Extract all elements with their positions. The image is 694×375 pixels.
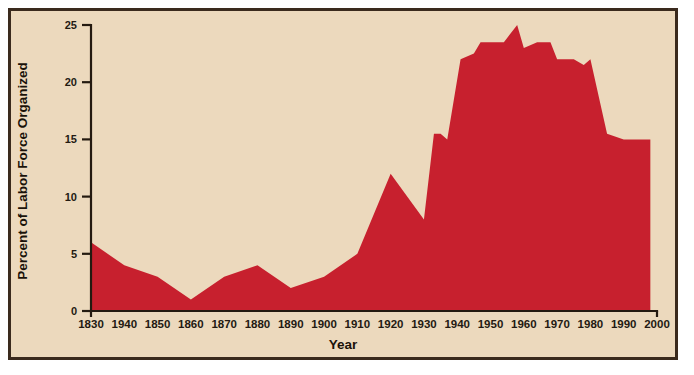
x-axis-title: Year <box>329 337 358 352</box>
x-tick-label: 1980 <box>578 318 604 330</box>
x-tick-label: 1860 <box>178 318 204 330</box>
chart-figure-frame: 0510152025 18301940185018601870188018901… <box>8 8 678 360</box>
x-tick-label: 1890 <box>278 318 304 330</box>
y-tick-label: 5 <box>71 248 77 260</box>
y-tick-label: 25 <box>65 19 77 31</box>
y-tick-label: 20 <box>65 76 77 88</box>
y-axis-ticks <box>82 25 91 311</box>
labor-force-area-chart: 0510152025 18301940185018601870188018901… <box>11 11 675 357</box>
x-tick-label: 1950 <box>478 318 504 330</box>
y-axis-tick-labels: 0510152025 <box>65 19 77 317</box>
y-tick-label: 0 <box>71 305 77 317</box>
area-series-path <box>91 25 650 311</box>
chart-plot-host: 0510152025 18301940185018601870188018901… <box>11 11 675 357</box>
x-tick-label: 1900 <box>311 318 337 330</box>
x-tick-label: 2000 <box>644 318 670 330</box>
x-tick-label: 1880 <box>245 318 271 330</box>
x-tick-label: 1960 <box>511 318 537 330</box>
y-tick-label: 15 <box>65 133 77 145</box>
x-tick-label: 1920 <box>378 318 404 330</box>
x-tick-label: 1990 <box>611 318 637 330</box>
x-tick-label: 1940 <box>111 318 137 330</box>
x-axis-tick-labels: 1830194018501860187018801890190019101920… <box>78 318 670 330</box>
x-tick-label: 1930 <box>411 318 437 330</box>
y-tick-label: 10 <box>65 191 77 203</box>
x-tick-label: 1850 <box>145 318 171 330</box>
x-tick-label: 1870 <box>211 318 237 330</box>
y-axis-title: Percent of Labor Force Organized <box>15 62 30 280</box>
area-series-group <box>91 25 650 311</box>
x-tick-label: 1940 <box>444 318 470 330</box>
x-tick-label: 1830 <box>78 318 104 330</box>
x-tick-label: 1910 <box>345 318 371 330</box>
x-tick-label: 1970 <box>544 318 570 330</box>
